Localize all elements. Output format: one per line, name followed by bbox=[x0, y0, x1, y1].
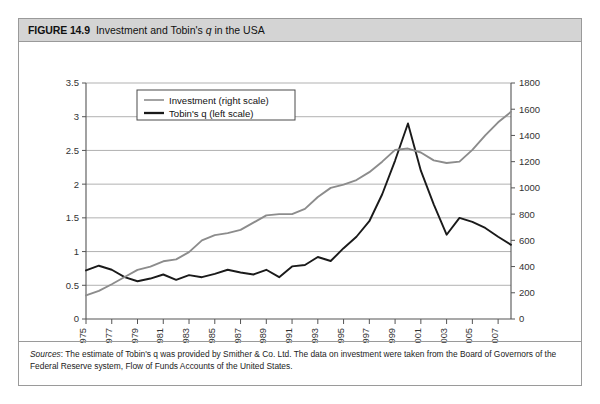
figure-number: FIGURE 14.9 bbox=[28, 24, 90, 36]
left-axis-tick-label: 0 bbox=[74, 313, 79, 324]
left-axis-tick-label: 1 bbox=[74, 246, 79, 257]
right-axis-tick-label: 1800 bbox=[519, 77, 540, 88]
figure-title-part1: Investment and Tobin's bbox=[96, 24, 206, 36]
right-axis-tick-label: 1600 bbox=[519, 104, 540, 115]
line-chart: 00.511.522.533.5020040060080010001200140… bbox=[19, 42, 581, 343]
left-axis-tick-label: 3 bbox=[74, 111, 79, 122]
figure-header: FIGURE 14.9 Investment and Tobin's q in … bbox=[19, 19, 581, 42]
sources-body: The estimate of Tobin's q was provided b… bbox=[30, 349, 556, 371]
figure-title-part2: in the USA bbox=[212, 24, 265, 36]
chart-plot-area: 00.511.522.533.5020040060080010001200140… bbox=[19, 42, 581, 343]
legend-label: Investment (right scale) bbox=[169, 95, 269, 106]
series-line bbox=[86, 112, 511, 296]
right-axis-tick-label: 1000 bbox=[519, 182, 540, 193]
left-axis-tick-label: 3.5 bbox=[66, 77, 79, 88]
figure-title: Investment and Tobin's q in the USA bbox=[96, 24, 265, 36]
legend-label: Tobin's q (left scale) bbox=[169, 108, 253, 119]
series-line bbox=[86, 123, 511, 281]
sources-text: Sources: The estimate of Tobin's q was p… bbox=[30, 348, 569, 373]
right-axis-tick-label: 800 bbox=[519, 209, 535, 220]
right-axis-tick-label: 600 bbox=[519, 235, 535, 246]
right-axis-tick-label: 400 bbox=[519, 261, 535, 272]
right-axis-tick-label: 0 bbox=[519, 313, 524, 324]
left-axis-tick-label: 1.5 bbox=[66, 212, 79, 223]
sources-note: Sources: The estimate of Tobin's q was p… bbox=[19, 341, 581, 385]
right-axis-tick-label: 1200 bbox=[519, 156, 540, 167]
figure-container: FIGURE 14.9 Investment and Tobin's q in … bbox=[18, 18, 582, 386]
left-axis-tick-label: 0.5 bbox=[66, 280, 79, 291]
left-axis-tick-label: 2.5 bbox=[66, 145, 79, 156]
right-axis-tick-label: 200 bbox=[519, 287, 535, 298]
sources-label: Sources bbox=[30, 349, 61, 359]
left-axis-tick-label: 2 bbox=[74, 179, 79, 190]
right-axis-tick-label: 1400 bbox=[519, 130, 540, 141]
